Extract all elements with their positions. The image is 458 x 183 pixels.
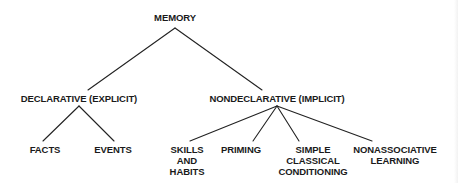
edge-declarative-facts [43,106,79,141]
edge-nondeclarative-nonassociative [277,106,372,141]
edge-nondeclarative-classical [277,106,299,141]
edge-memory-nondeclarative [175,28,262,90]
node-label-line: AND [170,155,205,166]
node-skills-and-habits: SKILLS AND HABITS [170,144,205,177]
edge-memory-declarative [88,28,175,90]
node-declarative: DECLARATIVE (EXPLICIT) [21,93,137,104]
node-label-line: CLASSICAL [279,155,348,166]
node-priming: PRIMING [221,144,261,155]
edge-declarative-events [79,106,114,141]
memory-taxonomy-diagram: MEMORY DECLARATIVE (EXPLICIT) NONDECLARA… [0,0,458,183]
node-nondeclarative: NONDECLARATIVE (IMPLICIT) [209,93,344,104]
node-events: EVENTS [94,144,131,155]
node-label-line: SIMPLE [279,144,348,155]
node-nonassociative-learning: NONASSOCIATIVE LEARNING [353,144,436,166]
node-label: MEMORY [154,12,196,23]
node-label-line: CONDITIONING [279,166,348,177]
node-label: DECLARATIVE (EXPLICIT) [21,93,137,104]
node-label-line: HABITS [170,166,205,177]
node-label-line: SKILLS [170,144,205,155]
node-label: FACTS [30,144,61,155]
node-label-line: NONASSOCIATIVE [353,144,436,155]
node-facts: FACTS [30,144,61,155]
edge-nondeclarative-skills [190,106,277,141]
node-label-line: LEARNING [353,155,436,166]
node-simple-classical-conditioning: SIMPLE CLASSICAL CONDITIONING [279,144,348,177]
page-edge-shadow [454,0,458,183]
node-label: NONDECLARATIVE (IMPLICIT) [209,93,344,104]
node-label: EVENTS [94,144,131,155]
node-memory: MEMORY [154,12,196,23]
node-label: PRIMING [221,144,261,155]
